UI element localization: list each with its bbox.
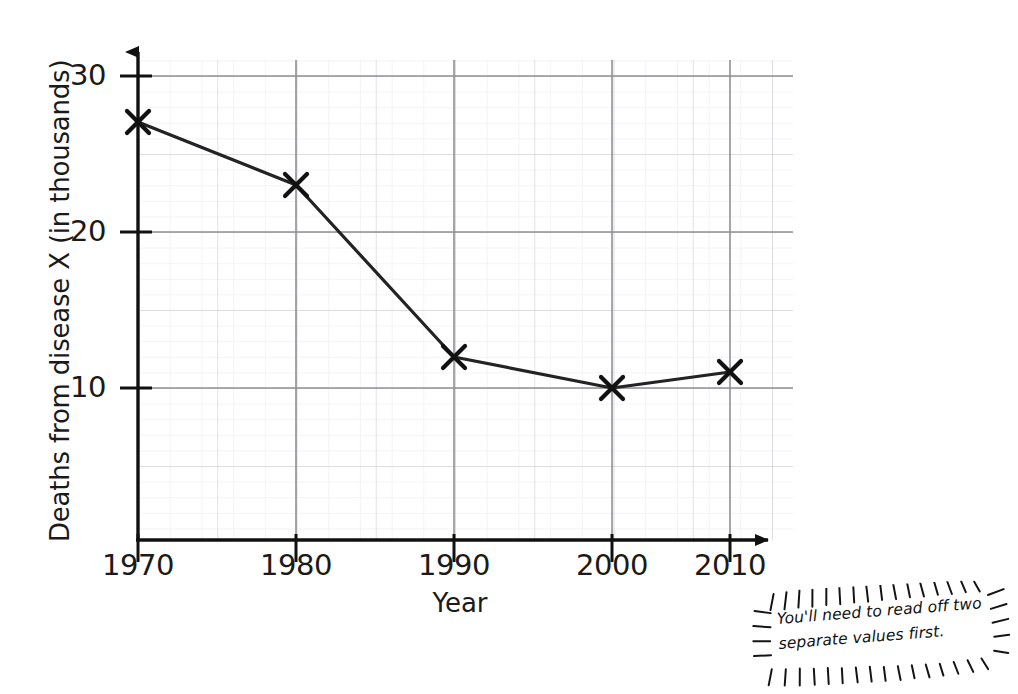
x-tick-label-2000: 2000 bbox=[552, 548, 672, 582]
hint-note: You'll need to read off two separate val… bbox=[749, 578, 1012, 690]
y-axis-title: Deaths from disease X (in thousands) bbox=[45, 62, 75, 542]
x-tick-label-1980: 1980 bbox=[236, 548, 356, 582]
x-tick-label-1990: 1990 bbox=[394, 548, 514, 582]
x-tick-label-1970: 1970 bbox=[78, 548, 198, 582]
chart-figure: 30 20 10 1970 1980 1990 2000 2010 Deaths… bbox=[0, 0, 1018, 694]
grid-medium bbox=[138, 60, 793, 540]
x-tick-label-2010: 2010 bbox=[670, 548, 790, 582]
